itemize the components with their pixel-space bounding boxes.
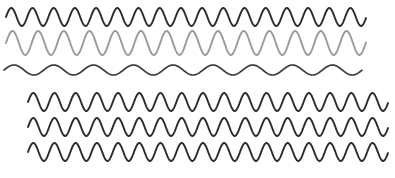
waveform-canvas (0, 0, 395, 178)
waveform-figure (0, 0, 395, 178)
